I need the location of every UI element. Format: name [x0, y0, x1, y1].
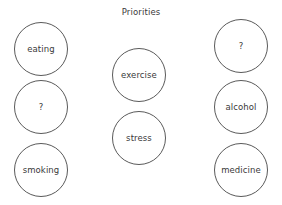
node-circle-medicine[interactable]: medicine — [214, 143, 268, 197]
node-circle-unknown-right[interactable]: ? — [214, 19, 268, 73]
node-circle-smoking[interactable]: smoking — [14, 143, 68, 197]
node-label: medicine — [221, 165, 261, 175]
node-circle-alcohol[interactable]: alcohol — [214, 80, 268, 134]
node-label: alcohol — [225, 102, 256, 112]
node-label: ? — [239, 41, 244, 51]
node-circle-unknown-left[interactable]: ? — [14, 80, 68, 134]
node-label: smoking — [23, 165, 60, 175]
node-label: exercise — [121, 70, 157, 80]
diagram-canvas: Priorities eating ? smoking exercise str… — [0, 0, 282, 205]
page-title: Priorities — [0, 7, 282, 18]
node-circle-stress[interactable]: stress — [112, 111, 166, 165]
node-circle-eating[interactable]: eating — [14, 22, 68, 76]
node-label: stress — [126, 133, 152, 143]
node-circle-exercise[interactable]: exercise — [112, 48, 166, 102]
node-label: eating — [27, 44, 55, 54]
node-label: ? — [39, 102, 44, 112]
